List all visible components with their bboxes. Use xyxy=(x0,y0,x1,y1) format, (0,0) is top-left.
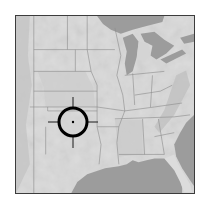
relief-map[interactable] xyxy=(15,15,195,194)
southeast-shading xyxy=(115,120,143,157)
plains-shading xyxy=(38,71,95,107)
map-canvas xyxy=(16,16,194,193)
